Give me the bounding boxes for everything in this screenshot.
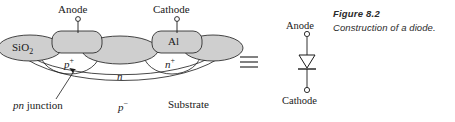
p-plus-superscript: + — [70, 56, 74, 65]
al-label: Al — [168, 36, 179, 47]
cross-section-drawing — [0, 17, 243, 99]
equivalence-symbol — [240, 57, 258, 67]
n-region-label: n — [117, 71, 123, 82]
schematic-cathode-circle — [304, 87, 309, 92]
figure-caption-title: Figure 8.2 — [333, 8, 380, 19]
substrate-label: Substrate — [168, 99, 209, 110]
sio2-text: SiO — [12, 41, 29, 53]
pn-junction-label: pn junction — [13, 100, 63, 111]
schematic-anode-circle — [304, 31, 309, 36]
schematic-cathode-label: Cathode — [282, 96, 317, 107]
anode-label: Anode — [58, 4, 87, 15]
n-plus-label: n+ — [165, 57, 175, 70]
p-minus-label: p− — [118, 100, 128, 113]
schematic-anode-label: Anode — [286, 21, 314, 32]
pn-junction-italic: pn — [13, 99, 24, 111]
pn-junction-rest: junction — [24, 99, 63, 111]
figure-8-2: Anode Cathode SiO2 p+ n Al n+ p− pn junc… — [0, 0, 455, 122]
diode-triangle-icon — [299, 55, 315, 68]
p-plus-label: p+ — [64, 57, 74, 70]
n-plus-superscript: + — [171, 56, 175, 65]
sio2-subscript: 2 — [29, 47, 33, 56]
oxide-layer — [0, 35, 243, 64]
terminal-nodes — [76, 17, 180, 22]
anode-contact — [52, 31, 102, 53]
cathode-terminal-circle — [175, 17, 180, 22]
anode-terminal-circle — [76, 17, 81, 22]
p-minus-superscript: − — [124, 99, 128, 108]
pn-junction-leader — [56, 71, 74, 99]
sio2-label: SiO2 — [12, 42, 33, 56]
cathode-label: Cathode — [153, 4, 190, 15]
diode-schematic — [298, 31, 316, 92]
figure-caption-text: Construction of a diode. — [333, 22, 436, 33]
